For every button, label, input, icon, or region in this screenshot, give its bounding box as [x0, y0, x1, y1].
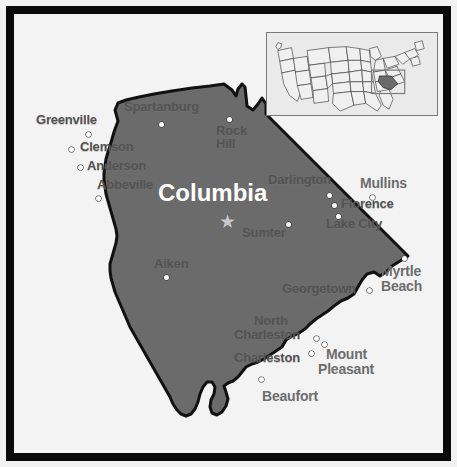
city-dot-aiken: [164, 275, 169, 280]
state-minnesota: [346, 47, 361, 61]
city-dot-rock-hill: [227, 117, 232, 122]
state-montana: [307, 48, 330, 66]
city-dot-greenville: [86, 132, 91, 137]
city-dot-georgetown: [367, 288, 372, 293]
city-dot-mount-pleasant: [322, 342, 327, 347]
city-dot-sumter: [286, 222, 291, 227]
us-states-group: [276, 41, 424, 111]
state-washington-tip: [276, 43, 282, 50]
state-arizona: [297, 84, 313, 100]
state-wyoming: [309, 63, 326, 78]
state-florida-gulf: [364, 92, 382, 112]
city-dot-lake-city: [336, 214, 341, 219]
city-dot-north-charleston: [314, 336, 319, 341]
state-oklahoma-arkansas: [350, 82, 364, 92]
us-map-svg: [267, 33, 437, 115]
city-dot-anderson: [78, 165, 83, 170]
state-polygon-group: [104, 84, 408, 416]
state-south-dakota: [331, 60, 350, 74]
map-figure: Columbia ★ Greenville Spartanburg Rock H…: [0, 0, 457, 467]
state-michigan-upper: [370, 47, 382, 61]
city-dot-darlington: [327, 193, 332, 198]
city-dot-florence: [332, 203, 337, 208]
state-north-dakota: [329, 47, 349, 63]
city-dot-clemson: [69, 147, 74, 152]
state-new-jersey-ne: [411, 56, 421, 66]
state-maine: [414, 41, 424, 51]
capital-star-icon: ★: [219, 212, 236, 231]
state-nevada: [295, 70, 311, 86]
state-louisiana: [351, 92, 366, 106]
city-dot-myrtle-beach: [402, 256, 407, 261]
city-dot-beaufort: [259, 377, 264, 382]
city-dot-mullins: [370, 195, 375, 200]
state-missouri: [349, 70, 363, 82]
city-dot-spartanburg: [159, 122, 164, 127]
frame-inner-canvas: Columbia ★ Greenville Spartanburg Rock H…: [14, 14, 443, 453]
us-locator-inset: [266, 32, 438, 116]
picture-frame: Columbia ★ Greenville Spartanburg Rock H…: [6, 6, 451, 461]
state-utah-colorado: [311, 76, 328, 91]
city-dot-abbeville: [96, 196, 101, 201]
state-texas: [332, 92, 353, 112]
state-idaho-w: [293, 56, 309, 72]
state-new-mexico: [313, 89, 329, 104]
city-dot-charleston: [309, 351, 314, 356]
south-carolina-outline: [104, 84, 408, 416]
